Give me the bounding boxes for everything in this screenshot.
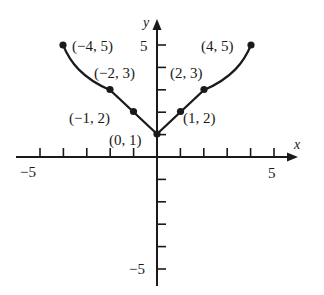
point-marker <box>247 41 254 48</box>
y-axis-label: y <box>141 15 150 30</box>
point-label: (−1, 2) <box>69 110 110 127</box>
x-axis: x −5 5 <box>16 137 301 181</box>
point-marker <box>130 108 137 115</box>
x-tick-label-pos5: 5 <box>268 165 276 181</box>
x-tick-label-neg5: −5 <box>20 164 36 180</box>
point-marker <box>200 86 207 93</box>
point-label: (0, 1) <box>109 132 142 149</box>
point-label: (4, 5) <box>201 38 234 55</box>
y-axis: y 5 −5 <box>129 15 166 286</box>
point-label: (2, 3) <box>170 65 203 82</box>
point-marker <box>153 130 160 137</box>
x-axis-label: x <box>293 137 301 152</box>
point-marker <box>59 41 66 48</box>
point-label: (−4, 5) <box>72 38 113 55</box>
point-label: (−2, 3) <box>94 65 135 82</box>
y-tick-label-pos5: 5 <box>140 38 148 54</box>
y-tick-label-neg5: −5 <box>129 261 145 277</box>
y-axis-arrow-icon <box>153 19 162 30</box>
x-axis-arrow-icon <box>287 153 298 162</box>
point-label: (1, 2) <box>183 110 216 127</box>
graph: x −5 5 y 5 −5 (−4, <box>0 0 324 295</box>
point-marker <box>106 86 113 93</box>
